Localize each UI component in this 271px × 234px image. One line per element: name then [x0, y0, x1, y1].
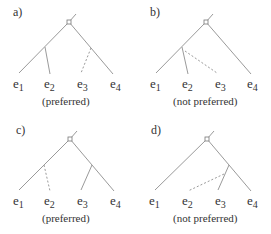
leaf-e3: e3 — [215, 76, 226, 93]
leaf-e4: e4 — [110, 76, 121, 93]
root-node-icon — [204, 20, 208, 24]
leaf-e2: e2 — [44, 76, 55, 93]
panel-b: b) e1 e2 e3 e4 (not preferred) — [135, 0, 270, 117]
leaf-e4: e4 — [110, 193, 121, 210]
leaf-e2: e2 — [44, 193, 55, 210]
leaf-e2: e2 — [182, 193, 193, 210]
root-node-icon — [68, 137, 72, 141]
leaf-e2: e2 — [182, 76, 193, 93]
root-node-icon — [67, 20, 71, 24]
panel-d: d) e1 e2 e3 e4 (not preferred) — [135, 117, 270, 234]
leaf-e1: e1 — [13, 76, 24, 93]
panel-a: a) e1 e2 e3 e4 (preferred) — [0, 0, 135, 117]
caption: (not preferred) — [173, 212, 237, 224]
leaf-e1: e1 — [149, 193, 160, 210]
caption: (preferred) — [42, 95, 90, 107]
leaf-e3: e3 — [77, 193, 88, 210]
caption: (not preferred) — [173, 95, 237, 107]
leaf-e3: e3 — [77, 76, 88, 93]
leaf-e4: e4 — [247, 76, 258, 93]
leaf-e3: e3 — [215, 193, 226, 210]
leaf-e1: e1 — [150, 76, 161, 93]
leaf-e1: e1 — [13, 193, 24, 210]
root-node-icon — [205, 137, 209, 141]
panel-c: c) e1 e2 e3 e4 (preferred) — [0, 117, 135, 234]
caption: (preferred) — [42, 212, 90, 224]
leaf-e4: e4 — [247, 193, 258, 210]
